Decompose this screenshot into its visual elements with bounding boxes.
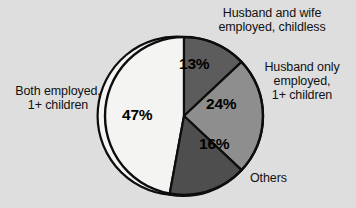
label-husband-only-employed: Husband only employed, 1+ children	[252, 60, 352, 102]
label-both-employed: Both employed, 1+ children	[6, 84, 110, 112]
value-label-others: 16%	[199, 135, 229, 153]
value-label-husband-only: 24%	[206, 95, 236, 113]
label-others: Others	[250, 171, 330, 185]
label-husband-and-wife-childless: Husband and wife employed, childless	[196, 6, 348, 34]
value-label-childless: 13%	[179, 55, 209, 73]
value-label-both-employed: 47%	[122, 106, 152, 124]
